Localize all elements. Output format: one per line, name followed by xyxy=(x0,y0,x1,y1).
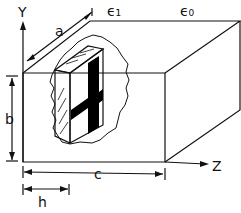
waveguide-diagram: Y Z ϵ₁ ϵ₀ a b c h xyxy=(0,0,241,213)
dim-a-label: a xyxy=(55,23,64,39)
dim-c-label: c xyxy=(94,166,102,182)
y-axis-arrow xyxy=(20,21,26,30)
z-axis-arrow xyxy=(200,161,209,167)
slab-side xyxy=(55,70,70,143)
box-right-face xyxy=(165,21,240,162)
y-axis-label: Y xyxy=(17,4,27,20)
z-axis xyxy=(165,162,205,164)
dim-b-label: b xyxy=(5,111,14,127)
epsilon-0-label: ϵ₀ xyxy=(180,3,195,19)
ridge-conductor xyxy=(71,56,103,134)
dim-h-label: h xyxy=(38,194,47,210)
z-axis-label: Z xyxy=(212,158,222,174)
epsilon-1-label: ϵ₁ xyxy=(107,3,121,19)
